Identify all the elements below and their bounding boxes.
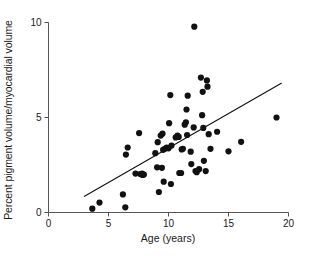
data-point xyxy=(200,89,206,95)
y-tick-label: 5 xyxy=(18,112,42,124)
data-point xyxy=(122,204,128,210)
data-point xyxy=(167,92,173,98)
data-point xyxy=(207,146,213,152)
data-point xyxy=(203,168,209,174)
data-point xyxy=(273,114,279,120)
axes xyxy=(45,23,289,217)
data-point xyxy=(156,189,162,195)
data-point xyxy=(141,171,147,177)
scatter-plot-figure: Percent pigment volume/myocardial volume… xyxy=(0,0,309,256)
data-point xyxy=(176,134,182,140)
data-point xyxy=(191,124,197,130)
data-point xyxy=(120,191,126,197)
data-point xyxy=(159,131,165,137)
data-point xyxy=(238,139,244,145)
data-points xyxy=(89,24,279,212)
data-point xyxy=(185,93,191,99)
data-point xyxy=(191,24,197,30)
data-point xyxy=(201,158,207,164)
data-point xyxy=(180,146,186,152)
data-point xyxy=(168,181,174,187)
data-point xyxy=(199,112,205,118)
data-point xyxy=(188,161,194,167)
data-point xyxy=(196,166,202,172)
data-point xyxy=(214,129,220,135)
data-point xyxy=(155,139,161,145)
data-point xyxy=(183,119,189,125)
x-tick-label: 5 xyxy=(96,218,122,230)
data-point xyxy=(96,200,102,206)
data-point xyxy=(123,151,129,157)
regression-line xyxy=(85,83,282,196)
y-tick-label: 0 xyxy=(18,207,42,219)
data-point xyxy=(206,131,212,137)
data-point xyxy=(161,179,167,185)
x-tick-label: 10 xyxy=(156,218,182,230)
y-tick-label: 10 xyxy=(18,17,42,29)
data-point xyxy=(168,143,174,149)
data-point xyxy=(200,125,206,131)
y-axis-label: Percent pigment volume/myocardial volume xyxy=(0,9,16,231)
x-axis-label: Age (years) xyxy=(48,231,288,245)
x-tick-label: 0 xyxy=(36,218,62,230)
x-tick-label: 15 xyxy=(216,218,242,230)
data-point xyxy=(159,165,165,171)
data-point xyxy=(204,77,210,83)
x-tick-label: 20 xyxy=(276,218,302,230)
data-point xyxy=(89,206,95,212)
data-point xyxy=(166,120,172,126)
data-point xyxy=(198,75,204,81)
data-point xyxy=(178,170,184,176)
data-point xyxy=(204,84,210,90)
data-point xyxy=(183,106,189,112)
data-point xyxy=(152,150,158,156)
data-point xyxy=(136,130,142,136)
data-point xyxy=(125,144,131,150)
data-point xyxy=(188,149,194,155)
data-point xyxy=(225,148,231,154)
data-point xyxy=(184,132,190,138)
